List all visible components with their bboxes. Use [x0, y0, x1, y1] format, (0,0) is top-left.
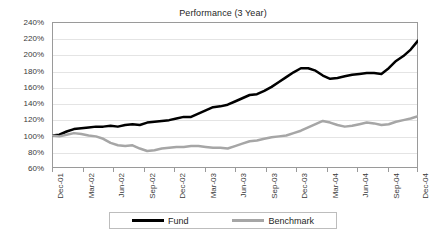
x-axis-tick-label: Mar-02 — [87, 173, 96, 198]
series-line-benchmark — [52, 116, 418, 151]
legend-swatch-icon — [232, 219, 264, 222]
y-axis-tick-label: 180% — [0, 66, 44, 75]
legend-label: Fund — [168, 216, 189, 226]
y-axis-tick-label: 220% — [0, 34, 44, 43]
x-axis-tick-mark — [417, 168, 418, 172]
x-axis-tick-label: Jun-04 — [361, 173, 370, 197]
x-axis-tick-mark — [266, 168, 267, 172]
series-line-fund — [52, 41, 418, 136]
x-axis-tick-mark — [296, 168, 297, 172]
x-axis-tick-label: Sep-04 — [392, 173, 401, 199]
legend-entry-fund: Fund — [132, 216, 189, 226]
x-axis-tick-mark — [205, 168, 206, 172]
y-axis-tick-label: 140% — [0, 99, 44, 108]
y-axis-tick-label: 120% — [0, 115, 44, 124]
chart-title: Performance (3 Year) — [0, 8, 446, 18]
x-axis: Dec-01Mar-02Jun-02Sep-02Dec-02Mar-03Jun-… — [52, 168, 418, 212]
x-axis-tick-mark — [113, 168, 114, 172]
y-axis-tick-label: 80% — [0, 147, 44, 156]
performance-chart: Performance (3 Year) 240%220%200%180%160… — [0, 0, 446, 233]
legend-label: Benchmark — [268, 216, 314, 226]
legend-swatch-icon — [132, 219, 164, 222]
y-axis-tick-label: 240% — [0, 18, 44, 27]
x-axis-tick-mark — [83, 168, 84, 172]
x-axis-tick-label: Jun-02 — [117, 173, 126, 197]
x-axis-tick-mark — [357, 168, 358, 172]
x-axis-tick-label: Sep-03 — [270, 173, 279, 199]
x-axis-tick-label: Sep-02 — [148, 173, 157, 199]
y-axis-tick-label: 160% — [0, 82, 44, 91]
x-axis-tick-label: Mar-04 — [331, 173, 340, 198]
y-axis-tick-label: 100% — [0, 131, 44, 140]
x-axis-tick-mark — [144, 168, 145, 172]
x-axis-tick-mark — [52, 168, 53, 172]
x-axis-tick-mark — [327, 168, 328, 172]
x-axis-tick-mark — [174, 168, 175, 172]
x-axis-tick-mark — [388, 168, 389, 172]
x-axis-tick-label: Dec-02 — [178, 173, 187, 199]
y-axis-tick-label: 60% — [0, 164, 44, 173]
x-axis-tick-label: Dec-04 — [421, 173, 430, 199]
x-axis-tick-label: Mar-03 — [209, 173, 218, 198]
legend-entry-benchmark: Benchmark — [232, 216, 314, 226]
x-axis-tick-label: Jun-03 — [239, 173, 248, 197]
x-axis-tick-label: Dec-03 — [300, 173, 309, 199]
x-axis-tick-mark — [235, 168, 236, 172]
series-lines — [52, 22, 418, 168]
y-axis: 240%220%200%180%160%140%120%100%80%60% — [0, 22, 48, 168]
x-axis-tick-label: Dec-01 — [56, 173, 65, 199]
chart-legend: FundBenchmark — [109, 212, 337, 229]
y-axis-tick-label: 200% — [0, 50, 44, 59]
